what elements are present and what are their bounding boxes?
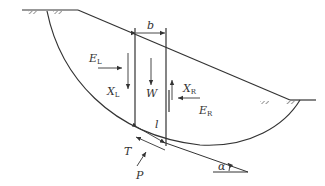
label-alpha: α <box>218 160 226 173</box>
label-t: T <box>124 145 133 158</box>
label-el: EL <box>88 52 102 66</box>
label-w: W <box>146 87 159 100</box>
label-xl: XL <box>106 85 120 99</box>
label-er: ER <box>198 104 213 118</box>
ground-hatch-icon <box>53 11 62 14</box>
ground-hatch-icon <box>260 101 269 104</box>
label-l: l <box>155 118 159 131</box>
slip-surface-arc <box>47 11 300 145</box>
slope-slice-diagram: b EL XL W XR ER l α T P <box>0 0 325 186</box>
ground-surface <box>22 10 316 100</box>
base-length-dimension-l <box>137 127 165 143</box>
label-b: b <box>147 19 154 32</box>
label-xr: XR <box>182 82 197 96</box>
label-p: P <box>135 169 144 182</box>
angle-arc-alpha <box>228 163 230 171</box>
ground-hatch-icon <box>28 11 37 14</box>
ground-hatch-icons <box>28 11 295 104</box>
force-arrow-t <box>136 137 165 150</box>
ground-hatch-icon <box>286 101 295 104</box>
force-arrow-p <box>137 152 146 166</box>
